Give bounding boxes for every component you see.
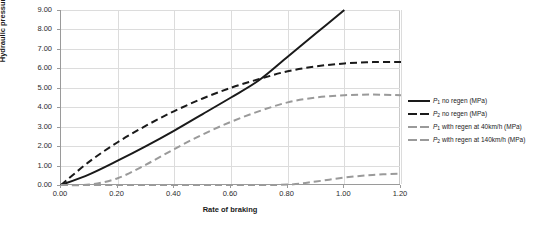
legend-line-icon (408, 97, 430, 105)
x-axis-tick-mark (173, 185, 174, 188)
plot-area (60, 10, 400, 185)
legend-line-icon (408, 123, 430, 131)
x-axis-title: Rate of braking (60, 205, 400, 214)
x-axis-tick-label: 1.00 (323, 190, 363, 198)
x-axis-tick-label: 0.00 (40, 190, 80, 198)
x-axis-tick-mark (343, 185, 344, 188)
x-axis-tick-mark (60, 185, 61, 188)
chart-legend: P1 no regen (MPa)P2 no regen (MPa)P1 wit… (408, 94, 544, 146)
legend-line-icon (408, 136, 430, 144)
legend-item-4[interactable]: P2 with regen at 140km/h (MPa) (408, 133, 544, 146)
gridline-vertical (401, 10, 402, 184)
series-line-2 (61, 62, 401, 185)
chart-container: Hydraulic pressure (MPa) 0.001.002.003.0… (0, 0, 544, 241)
y-axis-tick-label: 1.00 (22, 162, 52, 170)
x-axis-tick-label: 1.20 (380, 190, 420, 198)
y-axis-tick-label: 2.00 (22, 142, 52, 150)
y-axis-tick-label: 8.00 (22, 25, 52, 33)
series-line-3 (61, 95, 401, 186)
legend-item-label: P2 no regen (MPa) (433, 110, 487, 118)
series-lines (61, 10, 401, 185)
legend-item-label: P2 with regen at 140km/h (MPa) (433, 136, 525, 144)
x-axis-tick-label: 0.20 (97, 190, 137, 198)
y-axis-tick-label: 5.00 (22, 84, 52, 92)
y-axis-tick-label: 7.00 (22, 45, 52, 53)
x-axis-tick-mark (117, 185, 118, 188)
y-axis-title: Hydraulic pressure (MPa) (0, 0, 7, 72)
legend-item-3[interactable]: P1 with regen at 40km/h (MPa) (408, 120, 544, 133)
series-line-4 (61, 174, 401, 185)
y-axis-tick-label: 4.00 (22, 103, 52, 111)
legend-item-label: P1 no regen (MPa) (433, 97, 487, 105)
legend-item-label: P1 with regen at 40km/h (MPa) (433, 123, 522, 131)
y-axis-tick-label: 6.00 (22, 64, 52, 72)
legend-item-2[interactable]: P2 no regen (MPa) (408, 107, 544, 120)
x-axis-tick-label: 0.80 (267, 190, 307, 198)
x-axis-tick-mark (400, 185, 401, 188)
legend-line-icon (408, 110, 430, 118)
y-axis-tick-label: 0.00 (22, 181, 52, 189)
y-axis-tick-label: 3.00 (22, 123, 52, 131)
y-axis-tick-label: 9.00 (22, 6, 52, 14)
x-axis-tick-label: 0.60 (210, 190, 250, 198)
x-axis-tick-label: 0.40 (153, 190, 193, 198)
legend-item-1[interactable]: P1 no regen (MPa) (408, 94, 544, 107)
x-axis-tick-mark (287, 185, 288, 188)
x-axis-tick-mark (230, 185, 231, 188)
